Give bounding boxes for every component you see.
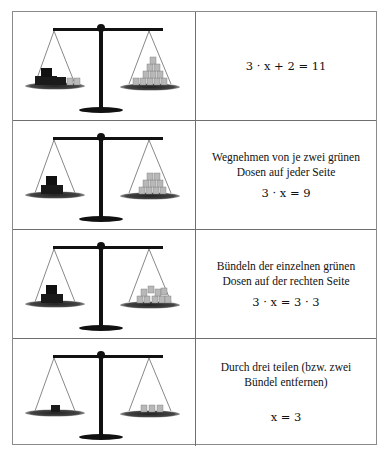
- step-description: Wegnehmen von je zwei grünen Dosen auf j…: [206, 150, 366, 180]
- step-text-cell: 3 · x + 2 = 11: [196, 12, 376, 120]
- step-text-cell: Durch drei teilen (bzw. zwei Bündel entf…: [196, 339, 376, 446]
- balance-scale-icon: [13, 230, 196, 339]
- equation: 3 · x + 2 = 11: [246, 59, 327, 74]
- table-row: Durch drei teilen (bzw. zwei Bündel entf…: [13, 338, 376, 446]
- equation: x = 3: [271, 410, 302, 425]
- step-description: Durch drei teilen (bzw. zwei Bündel entf…: [206, 360, 366, 390]
- step-text-cell: Wegnehmen von je zwei grünen Dosen auf j…: [196, 121, 376, 229]
- table-row: Bündeln der einzelnen grünen Dosen auf d…: [13, 229, 376, 338]
- balance-scale-image: [13, 121, 196, 229]
- step-text-cell: Bündeln der einzelnen grünen Dosen auf d…: [196, 230, 376, 338]
- balance-scale-icon: [13, 339, 196, 447]
- balance-scale-icon: [13, 121, 196, 230]
- balance-scale-image: [13, 230, 196, 338]
- table-row: Wegnehmen von je zwei grünen Dosen auf j…: [13, 120, 376, 229]
- table-row: 3 · x + 2 = 11: [13, 12, 376, 120]
- balance-scale-image: [13, 12, 196, 120]
- equation: 3 · x = 9: [261, 186, 310, 201]
- step-description: Bündeln der einzelnen grünen Dosen auf d…: [206, 259, 366, 289]
- equation-steps-table: 3 · x + 2 = 11: [12, 11, 377, 445]
- balance-scale-image: [13, 339, 196, 446]
- balance-scale-icon: [13, 12, 196, 120]
- equation: 3 · x = 3 · 3: [252, 295, 319, 310]
